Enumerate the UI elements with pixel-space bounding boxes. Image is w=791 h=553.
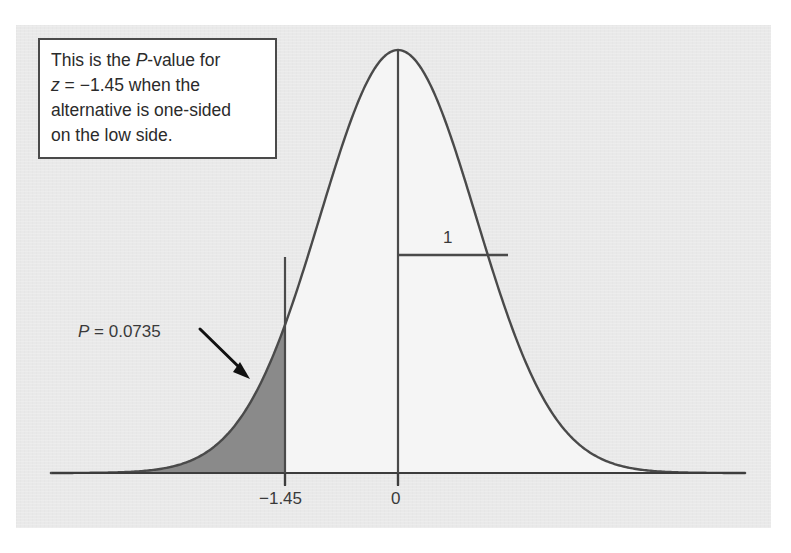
callout-line-1: This is the P-value for — [51, 48, 265, 73]
p-value-symbol: P — [78, 322, 89, 341]
callout-line-3: alternative is one-sided — [51, 98, 265, 123]
p-value-number: = 0.0735 — [89, 322, 160, 341]
sd-segment-label: 1 — [443, 228, 452, 248]
p-value-label: P = 0.0735 — [78, 322, 161, 342]
tick-label-neg: −1.45 — [259, 489, 302, 509]
callout-line-4: on the low side. — [51, 123, 265, 148]
tick-label-zero: 0 — [391, 489, 400, 509]
callout-z-italic: z — [51, 75, 60, 95]
callout-line-2: z = −1.45 when the — [51, 73, 265, 98]
figure-normal-curve-p-value: This is the P-value for z = −1.45 when t… — [0, 0, 791, 553]
callout-p-italic: P — [136, 50, 148, 70]
callout-line-1-pre: This is the — [51, 50, 136, 70]
callout-line-1-post: -value for — [147, 50, 220, 70]
callout-line-2-post: = −1.45 when the — [60, 75, 200, 95]
p-value-arrow — [200, 329, 250, 379]
callout-box: This is the P-value for z = −1.45 when t… — [38, 38, 277, 159]
